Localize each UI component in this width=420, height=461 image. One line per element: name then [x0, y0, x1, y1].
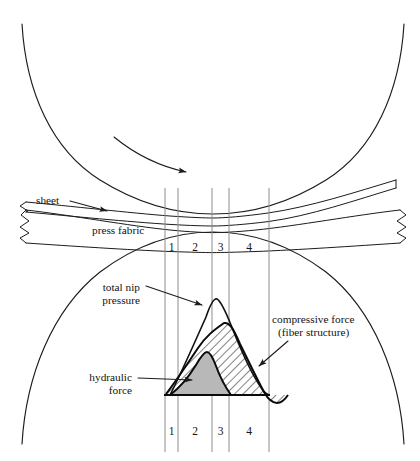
zone-number-bottom-1: 1 [169, 425, 175, 437]
compressive-force-label-line2: (fiber structure) [278, 326, 349, 339]
compressive-force-label-line1: compressive force [272, 313, 355, 325]
zone-number-bottom-4: 4 [246, 425, 252, 437]
zone-number-bottom-2: 2 [192, 425, 198, 437]
press-fabric-label-group: press fabric [92, 224, 144, 236]
hydraulic-force-label-line2: force [109, 384, 132, 396]
diagram-canvas: 1 2 3 4 1 2 3 4 sheet press fabric total… [0, 0, 420, 461]
total-nip-pressure-label-line1: total nip [103, 281, 141, 293]
press-fabric-label: press fabric [92, 224, 144, 236]
zone-number-bottom-3: 3 [218, 425, 224, 437]
zone-number-top-3: 3 [218, 241, 224, 253]
hydraulic-force-label-line1: hydraulic [89, 371, 132, 383]
zone-number-top-4: 4 [246, 241, 252, 253]
zone-number-top-2: 2 [192, 241, 198, 253]
sheet-label: sheet [36, 194, 60, 206]
zone-number-top-1: 1 [169, 241, 175, 253]
total-nip-pressure-label-line2: pressure [102, 294, 140, 306]
nip-pressure-diagram: 1 2 3 4 1 2 3 4 sheet press fabric total… [0, 0, 420, 461]
